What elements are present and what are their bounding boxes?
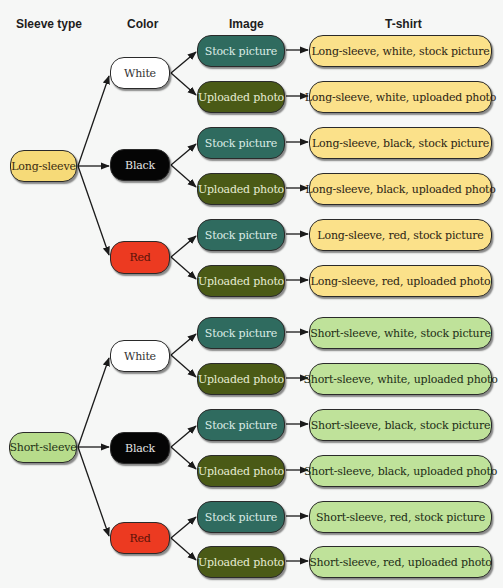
node-long-black: Black — [110, 149, 170, 181]
node-image-uploaded: Uploaded photo — [197, 81, 285, 113]
node-long-sleeve: Long-sleeve — [10, 150, 77, 182]
node-tshirt: Long-sleeve, white, stock picture — [309, 35, 492, 67]
node-image-uploaded: Uploaded photo — [197, 455, 285, 487]
node-tshirt: Short-sleeve, red, stock picture — [309, 501, 492, 533]
node-short-sleeve: Short-sleeve — [9, 432, 77, 463]
node-tshirt: Long-sleeve, black, stock picture — [309, 127, 492, 159]
node-tshirt: Short-sleeve, white, stock picture — [309, 317, 492, 349]
node-tshirt: Short-sleeve, black, stock picture — [309, 409, 492, 441]
node-image-uploaded: Uploaded photo — [197, 363, 285, 395]
node-image-stock: Stock picture — [197, 127, 285, 159]
node-long-white: White — [110, 57, 170, 89]
node-long-red: Red — [110, 241, 170, 274]
node-image-stock: Stock picture — [197, 317, 285, 349]
node-image-uploaded: Uploaded photo — [197, 265, 285, 297]
node-tshirt: Short-sleeve, black, uploaded photo — [309, 455, 492, 487]
node-tshirt: Short-sleeve, white, uploaded photo — [309, 363, 492, 395]
node-image-stock: Stock picture — [197, 35, 285, 67]
node-short-white: White — [110, 340, 170, 372]
node-image-uploaded: Uploaded photo — [197, 546, 285, 578]
node-short-red: Red — [110, 522, 170, 554]
node-tshirt: Short-sleeve, red, uploaded photo — [309, 546, 492, 578]
node-tshirt: Long-sleeve, white, uploaded photo — [309, 81, 492, 113]
node-tshirt: Long-sleeve, red, stock picture — [309, 219, 492, 251]
node-image-stock: Stock picture — [197, 219, 285, 251]
node-tshirt: Long-sleeve, black, uploaded photo — [309, 173, 492, 205]
node-tshirt: Long-sleeve, red, uploaded photo — [309, 265, 492, 297]
node-image-stock: Stock picture — [197, 501, 285, 533]
node-image-uploaded: Uploaded photo — [197, 173, 285, 205]
node-short-black: Black — [110, 432, 170, 464]
node-image-stock: Stock picture — [197, 409, 285, 441]
